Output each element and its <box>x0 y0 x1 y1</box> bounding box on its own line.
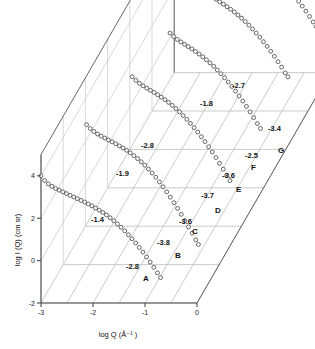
data-point <box>254 31 258 35</box>
data-point <box>148 260 152 264</box>
data-point <box>232 10 236 14</box>
data-point <box>105 213 109 217</box>
data-point <box>258 35 262 39</box>
data-point <box>152 90 156 94</box>
x-tick-label: -1 <box>142 309 148 316</box>
data-point <box>152 265 156 269</box>
curve-label-G: G <box>278 146 284 155</box>
data-point <box>204 58 208 62</box>
data-point <box>215 68 219 72</box>
data-point <box>297 0 301 3</box>
data-point <box>197 52 201 56</box>
data-point <box>141 84 145 88</box>
data-point <box>308 15 312 19</box>
data-point <box>214 0 218 1</box>
data-point <box>226 80 230 84</box>
data-point <box>229 7 233 11</box>
x-tick-label: 0 <box>195 309 199 316</box>
slope-label: -3.6 <box>179 217 192 226</box>
data-point <box>156 93 160 97</box>
data-point <box>225 5 229 9</box>
data-point <box>259 126 263 130</box>
data-point <box>130 237 134 241</box>
data-point <box>137 246 141 250</box>
data-point <box>255 122 259 126</box>
data-point <box>210 150 214 154</box>
data-point <box>252 116 256 120</box>
y-tick-label: 0 <box>31 257 35 264</box>
data-point <box>46 182 50 186</box>
data-point <box>196 130 200 134</box>
data-point <box>154 175 158 179</box>
data-point <box>168 195 172 199</box>
data-point <box>311 20 315 24</box>
data-point <box>115 222 119 226</box>
data-point <box>240 16 244 20</box>
y-tick-label: 2 <box>31 215 35 222</box>
data-point <box>272 54 276 58</box>
data-point <box>128 151 132 155</box>
slope-label: -2.8 <box>126 262 139 271</box>
data-point <box>185 117 189 121</box>
data-point <box>165 190 169 194</box>
data-point <box>190 47 194 51</box>
data-point <box>175 37 179 41</box>
data-point <box>183 42 187 46</box>
data-point <box>103 136 107 140</box>
curve-label-E: E <box>236 185 242 194</box>
data-point <box>179 212 183 216</box>
data-point <box>123 229 127 233</box>
data-point <box>141 250 145 254</box>
slope-label: -3.6 <box>222 171 235 180</box>
data-point <box>186 45 190 49</box>
slope-label: -3.4 <box>268 124 282 133</box>
data-point <box>83 200 87 204</box>
slope-label: -3.7 <box>201 191 214 200</box>
figure-canvas: -3-2-10420-2 log Q (Å⁻¹ ) log I (Q) (cm … <box>0 0 315 349</box>
data-point <box>147 167 151 171</box>
slope-label: -2.8 <box>141 141 154 150</box>
data-point <box>276 60 280 64</box>
slope-annotations: -1.4-2.8-1.9-3.8-2.8-3.6-1.8-3.7-3.6-2.7… <box>91 81 282 271</box>
data-point <box>241 99 245 103</box>
data-point <box>168 31 172 35</box>
data-point <box>99 134 103 138</box>
curve-labels: ABCDEFG <box>143 146 284 283</box>
curve-label-F: F <box>251 163 256 172</box>
data-point <box>112 219 116 223</box>
slope-label: -3.8 <box>157 238 170 247</box>
data-point <box>223 76 227 80</box>
data-point <box>218 161 222 165</box>
data-point <box>145 255 149 259</box>
data-point <box>132 154 136 158</box>
data-point <box>134 78 138 82</box>
data-point <box>214 156 218 160</box>
data-point <box>167 100 171 104</box>
curve-label-B: B <box>175 251 181 260</box>
data-point <box>138 81 142 85</box>
data-point <box>207 145 211 149</box>
data-point <box>194 238 198 242</box>
data-point <box>181 114 185 118</box>
data-point <box>203 140 207 144</box>
data-point <box>96 132 100 136</box>
data-point <box>174 107 178 111</box>
y-tick-label: 4 <box>31 172 35 179</box>
data-point <box>159 95 163 99</box>
data-point <box>201 55 205 59</box>
data-point <box>85 123 89 127</box>
data-point <box>88 127 92 131</box>
data-point <box>176 206 180 210</box>
data-point <box>161 185 165 189</box>
data-point <box>194 50 198 54</box>
data-point <box>163 98 167 102</box>
data-point <box>43 179 47 183</box>
data-point <box>101 211 105 215</box>
data-point <box>286 75 290 79</box>
data-point <box>251 27 255 31</box>
data-point <box>136 157 140 161</box>
data-point <box>196 243 200 247</box>
data-point <box>50 184 54 188</box>
data-point <box>261 40 265 44</box>
data-point <box>156 271 160 275</box>
